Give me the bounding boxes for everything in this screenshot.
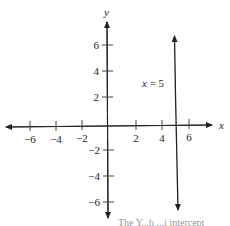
y-tick-labels: 6 4 2 −2 −4 −6 (88, 39, 100, 208)
svg-text:−6: −6 (24, 133, 36, 145)
svg-text:−2: −2 (88, 144, 100, 156)
line-label: x = 5 (141, 77, 165, 89)
svg-text:6: 6 (94, 39, 100, 51)
svg-text:6: 6 (186, 131, 192, 143)
svg-text:−4: −4 (88, 170, 100, 182)
coordinate-plane: x y −6 −4 −2 2 4 6 6 4 2 −2 −4 −6 x (0, 0, 230, 226)
svg-text:2: 2 (94, 91, 100, 103)
x-tick-labels: −6 −4 −2 2 4 6 (24, 131, 192, 145)
svg-text:−2: −2 (76, 132, 88, 144)
svg-text:−4: −4 (50, 133, 62, 145)
x-axis-label: x (218, 119, 224, 131)
svg-text:−6: −6 (88, 196, 100, 208)
caption-fragment: The Y...h ...i intercept (118, 217, 205, 226)
svg-text:4: 4 (159, 132, 165, 144)
line-x-equals-5 (175, 36, 176, 95)
y-axis-label: y (103, 6, 109, 18)
svg-text:2: 2 (133, 132, 139, 144)
svg-text:4: 4 (94, 65, 100, 77)
